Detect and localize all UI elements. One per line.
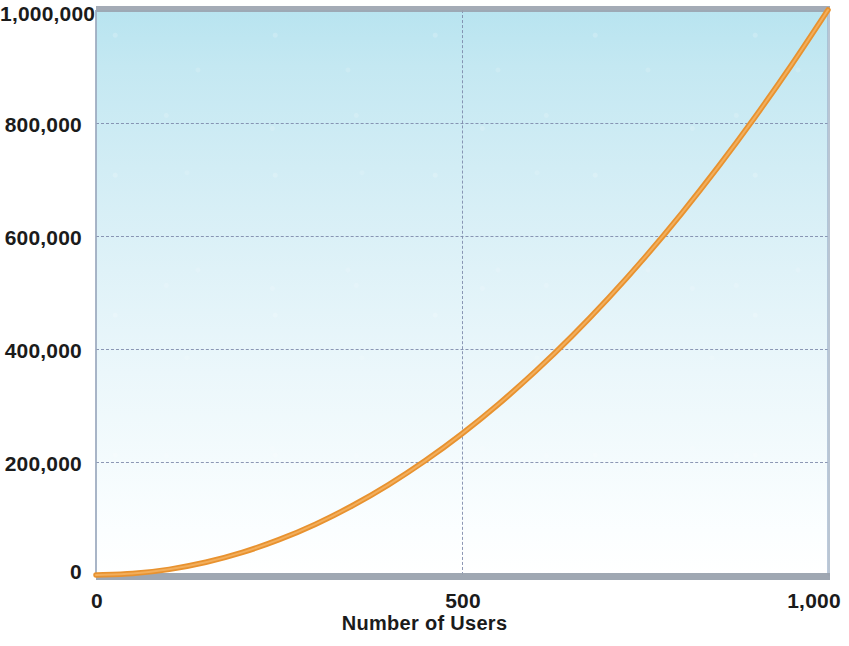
y-tick-label-800000: 800,000 — [0, 113, 82, 137]
x-tick-label-0: 0 — [82, 589, 112, 613]
curve-path — [96, 10, 828, 575]
y-tick-label-1000000: 1,000,000 — [0, 2, 82, 26]
x-tick-label-500: 500 — [432, 589, 494, 613]
x-axis-title: Number of Users — [0, 612, 849, 635]
curve-highlight — [96, 10, 828, 575]
axis-right-rule — [828, 10, 830, 576]
y-tick-label-600000: 600,000 — [0, 226, 82, 250]
chart-figure: 1,000,000 800,000 600,000 400,000 200,00… — [0, 0, 849, 646]
y-tick-label-400000: 400,000 — [0, 339, 82, 363]
series-line-number-of-connections — [96, 10, 828, 575]
x-tick-label-1000: 1,000 — [780, 589, 848, 613]
y-tick-label-200000: 200,000 — [0, 452, 82, 476]
y-tick-label-0: 0 — [0, 560, 82, 584]
